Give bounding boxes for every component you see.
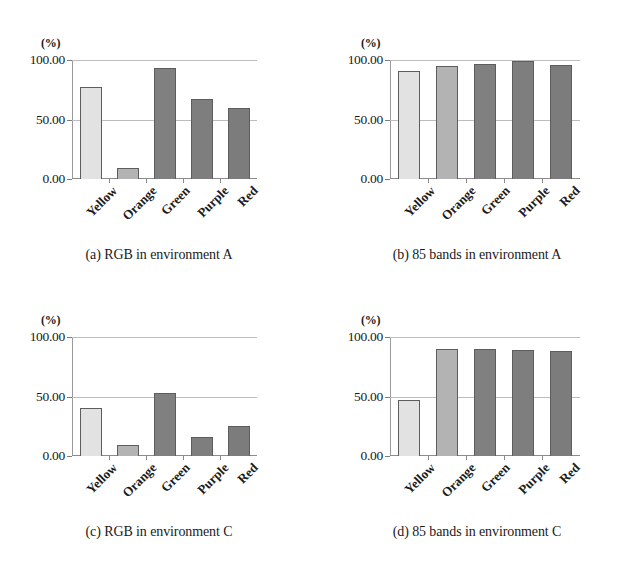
x-label-a-yellow: Yellow — [83, 183, 120, 220]
x-label-b-green: Green — [478, 183, 514, 219]
figure-grid: (%) 0.0050.00100.00YellowOrangeGreenPurp… — [0, 0, 636, 578]
panel-caption-a: (a) RGB in environment A — [0, 247, 318, 263]
bar-slot-green — [146, 337, 183, 456]
bar-d-purple — [512, 350, 534, 456]
bar-slot-green — [146, 60, 183, 179]
bar-c-red — [228, 426, 250, 456]
bar-b-green — [474, 64, 496, 179]
bar-series-b — [390, 60, 580, 179]
x-axis-labels-a: YellowOrangeGreenPurpleRed — [72, 179, 257, 235]
bar-slot-purple — [504, 337, 542, 456]
y-unit-label-a: (%) — [41, 36, 60, 51]
y-tick-label-b-100: 100.00 — [348, 52, 383, 68]
bar-slot-red — [542, 60, 580, 179]
x-label-b-yellow: Yellow — [401, 183, 438, 220]
x-label-c-yellow: Yellow — [83, 460, 120, 497]
y-tick-label-a-50: 50.00 — [36, 112, 65, 128]
bar-a-red — [228, 108, 250, 179]
bar-series-a — [72, 60, 257, 179]
x-label-a-red: Red — [234, 183, 261, 210]
x-label-b-red: Red — [556, 183, 583, 210]
bar-series-d — [390, 337, 580, 456]
bar-a-yellow — [80, 87, 102, 179]
bar-slot-purple — [183, 337, 220, 456]
bar-slot-green — [466, 60, 504, 179]
bar-slot-orange — [109, 60, 146, 179]
y-tick-label-d-50: 50.00 — [354, 389, 383, 405]
bar-slot-orange — [428, 337, 466, 456]
x-axis-labels-d: YellowOrangeGreenPurpleRed — [390, 456, 580, 512]
x-label-d-orange: Orange — [438, 460, 479, 501]
bar-c-purple — [191, 437, 213, 456]
x-label-d-green: Green — [478, 460, 514, 496]
x-axis-labels-c: YellowOrangeGreenPurpleRed — [72, 456, 257, 512]
y-unit-label-c: (%) — [41, 313, 60, 328]
bar-b-orange — [436, 66, 458, 179]
bar-slot-orange — [109, 337, 146, 456]
bar-slot-red — [220, 60, 257, 179]
x-label-c-red: Red — [234, 460, 261, 487]
bar-slot-purple — [504, 60, 542, 179]
bar-slot-red — [542, 337, 580, 456]
bar-a-green — [154, 68, 176, 179]
y-tick-label-a-0: 0.00 — [43, 171, 65, 187]
x-label-a-purple: Purple — [194, 183, 232, 221]
y-tick-label-c-50: 50.00 — [36, 389, 65, 405]
x-label-d-red: Red — [556, 460, 583, 487]
x-label-a-orange: Orange — [119, 183, 160, 224]
bar-d-red — [550, 351, 572, 456]
panel-caption-d: (d) 85 bands in environment C — [318, 524, 636, 540]
x-axis-labels-b: YellowOrangeGreenPurpleRed — [390, 179, 580, 235]
bar-series-c — [72, 337, 257, 456]
x-label-b-purple: Purple — [515, 183, 553, 221]
bar-a-purple — [191, 99, 213, 179]
bar-b-yellow — [398, 71, 420, 179]
y-unit-label-d: (%) — [361, 313, 380, 328]
bar-slot-yellow — [72, 337, 109, 456]
bar-slot-yellow — [390, 60, 428, 179]
y-tick-label-a-100: 100.00 — [30, 52, 65, 68]
panel-caption-b: (b) 85 bands in environment A — [318, 247, 636, 263]
y-tick-label-b-0: 0.00 — [361, 171, 383, 187]
chart-panel-d: (%) 0.0050.00100.00YellowOrangeGreenPurp… — [318, 289, 636, 578]
bar-d-orange — [436, 349, 458, 456]
bar-b-purple — [512, 61, 534, 179]
chart-panel-a: (%) 0.0050.00100.00YellowOrangeGreenPurp… — [0, 0, 318, 289]
bar-d-yellow — [398, 400, 420, 456]
bar-slot-yellow — [390, 337, 428, 456]
bar-d-green — [474, 349, 496, 456]
bar-c-green — [154, 393, 176, 456]
bar-a-orange — [117, 168, 139, 179]
bar-b-red — [550, 65, 572, 179]
plot-area-b: 0.0050.00100.00YellowOrangeGreenPurpleRe… — [390, 60, 580, 179]
y-unit-label-b: (%) — [361, 36, 380, 51]
x-label-c-purple: Purple — [194, 460, 232, 498]
bar-c-orange — [117, 445, 139, 456]
x-label-c-orange: Orange — [119, 460, 160, 501]
y-tick-label-c-100: 100.00 — [30, 329, 65, 345]
x-label-b-orange: Orange — [438, 183, 479, 224]
plot-area-d: 0.0050.00100.00YellowOrangeGreenPurpleRe… — [390, 337, 580, 456]
chart-panel-c: (%) 0.0050.00100.00YellowOrangeGreenPurp… — [0, 289, 318, 578]
x-label-d-purple: Purple — [515, 460, 553, 498]
bar-slot-yellow — [72, 60, 109, 179]
y-tick-label-d-0: 0.00 — [361, 448, 383, 464]
panel-caption-c: (c) RGB in environment C — [0, 524, 318, 540]
x-label-d-yellow: Yellow — [401, 460, 438, 497]
chart-panel-b: (%) 0.0050.00100.00YellowOrangeGreenPurp… — [318, 0, 636, 289]
x-label-a-green: Green — [157, 183, 193, 219]
bar-slot-orange — [428, 60, 466, 179]
plot-area-c: 0.0050.00100.00YellowOrangeGreenPurpleRe… — [72, 337, 257, 456]
x-label-c-green: Green — [157, 460, 193, 496]
bar-c-yellow — [80, 408, 102, 456]
plot-area-a: 0.0050.00100.00YellowOrangeGreenPurpleRe… — [72, 60, 257, 179]
bar-slot-red — [220, 337, 257, 456]
y-tick-label-d-100: 100.00 — [348, 329, 383, 345]
bar-slot-purple — [183, 60, 220, 179]
y-tick-label-b-50: 50.00 — [354, 112, 383, 128]
y-tick-label-c-0: 0.00 — [43, 448, 65, 464]
bar-slot-green — [466, 337, 504, 456]
